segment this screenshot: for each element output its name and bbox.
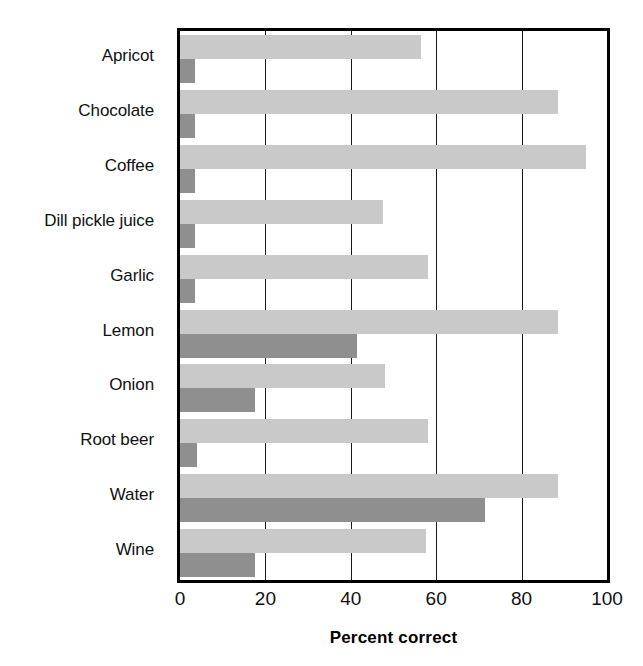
bar-series-light bbox=[180, 90, 558, 114]
x-tick-label-0: 0 bbox=[175, 588, 186, 610]
bar-series-dark bbox=[180, 169, 195, 193]
bar-group bbox=[180, 145, 607, 196]
bar-series-dark bbox=[180, 334, 357, 358]
bar-series-dark bbox=[180, 279, 195, 303]
bar-group bbox=[180, 474, 607, 525]
bar-group bbox=[180, 529, 607, 580]
x-tick-label-60: 60 bbox=[426, 588, 447, 610]
y-axis-label-garlic: Garlic bbox=[110, 267, 154, 284]
bar-group bbox=[180, 364, 607, 415]
y-axis-label-root-beer: Root beer bbox=[80, 431, 154, 448]
bar-series-dark bbox=[180, 59, 195, 83]
y-axis-label-coffee: Coffee bbox=[105, 157, 154, 174]
bar-series-light bbox=[180, 474, 558, 498]
bar-series-light bbox=[180, 35, 421, 59]
bar-group bbox=[180, 35, 607, 86]
bar-series-dark bbox=[180, 553, 255, 577]
y-axis-label-chocolate: Chocolate bbox=[78, 102, 154, 119]
x-axis-title: Percent correct bbox=[177, 628, 610, 648]
x-tick-label-80: 80 bbox=[511, 588, 532, 610]
bar-series-light bbox=[180, 310, 558, 334]
bar-group bbox=[180, 310, 607, 361]
x-tick-label-100: 100 bbox=[591, 588, 623, 610]
bar-series-light bbox=[180, 200, 383, 224]
y-axis-label-dill-pickle-juice: Dill pickle juice bbox=[44, 212, 154, 229]
plot-inner bbox=[180, 31, 607, 580]
bar-series-dark bbox=[180, 443, 197, 467]
bar-series-dark bbox=[180, 388, 255, 412]
y-axis-label-apricot: Apricot bbox=[102, 47, 154, 64]
x-axis-tick-labels: 020406080100 bbox=[177, 588, 610, 614]
plot-area bbox=[177, 28, 610, 583]
bar-group bbox=[180, 200, 607, 251]
bar-series-light bbox=[180, 529, 426, 553]
bar-chart: ApricotChocolateCoffeeDill pickle juiceG… bbox=[0, 0, 643, 666]
bar-series-light bbox=[180, 419, 428, 443]
x-tick-label-40: 40 bbox=[340, 588, 361, 610]
bar-series-light bbox=[180, 364, 385, 388]
bar-series-dark bbox=[180, 224, 195, 248]
y-axis-label-lemon: Lemon bbox=[103, 322, 154, 339]
bar-series-dark bbox=[180, 114, 195, 138]
y-axis-label-water: Water bbox=[110, 486, 154, 503]
y-axis-category-labels: ApricotChocolateCoffeeDill pickle juiceG… bbox=[0, 28, 166, 583]
bar-series-dark bbox=[180, 498, 485, 522]
y-axis-label-onion: Onion bbox=[109, 376, 154, 393]
bar-series-light bbox=[180, 255, 428, 279]
bar-series-light bbox=[180, 145, 586, 169]
bar-group bbox=[180, 90, 607, 141]
bar-group bbox=[180, 419, 607, 470]
x-tick-label-20: 20 bbox=[255, 588, 276, 610]
bar-group bbox=[180, 255, 607, 306]
y-axis-label-wine: Wine bbox=[116, 541, 154, 558]
